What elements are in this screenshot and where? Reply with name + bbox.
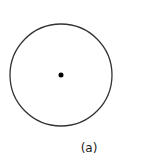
figure-caption: (a) [78,140,100,156]
center-point [59,73,64,78]
circle-diagram [0,0,154,167]
